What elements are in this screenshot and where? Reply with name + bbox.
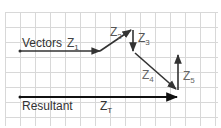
label-z5: Z5 <box>183 69 195 85</box>
label-z4: Z4 <box>142 68 154 84</box>
label-vectors: Vectors <box>22 36 62 50</box>
label-z3: Z3 <box>138 31 150 47</box>
label-z1: Z1 <box>67 36 79 52</box>
vector-diagram: Vectors Z1 Z2 Z3 Z4 Z5 Resultant ZT <box>0 0 221 128</box>
label-resultant: Resultant <box>22 99 73 113</box>
